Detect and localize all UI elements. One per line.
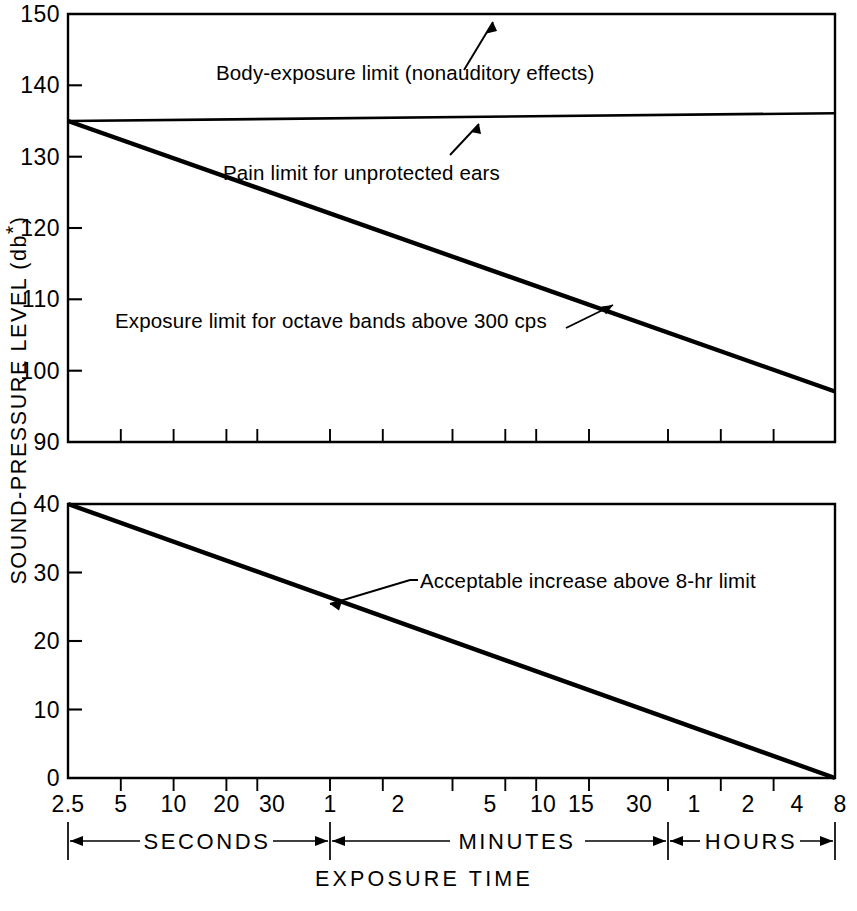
y-axis-title-group: SOUND-PRESSURE LEVEL (db*) — [1, 215, 31, 584]
bottom-panel: 40 30 20 10 0 Acceptab — [33, 491, 835, 791]
arrow-right-icon — [315, 836, 328, 846]
x-tick-label: 30 — [626, 791, 652, 817]
y-axis-title-star: * — [1, 224, 24, 234]
band-hours: HOURS — [670, 829, 833, 854]
band-label: HOURS — [705, 829, 797, 854]
y-tick-label: 150 — [20, 1, 60, 27]
x-tick-label: 15 — [568, 791, 594, 817]
top-panel: 150 140 130 120 110 100 90 — [20, 1, 835, 455]
y-axis-title-close: ) — [7, 215, 31, 224]
band-minutes: MINUTES — [332, 829, 666, 854]
arrowhead-icon — [471, 124, 481, 134]
x-tick-label: 2.5 — [52, 791, 85, 817]
arrow-left-icon — [70, 836, 83, 846]
x-tick-label: 5 — [483, 791, 496, 817]
bottom-panel-x-ticks — [121, 778, 774, 791]
x-tick-label: 1 — [687, 791, 700, 817]
band-seconds: SECONDS — [70, 829, 328, 854]
arrow-right-icon — [653, 836, 666, 846]
bottom-panel-y-tick-labels: 40 30 20 10 0 — [33, 491, 60, 791]
y-tick-label: 140 — [20, 72, 60, 98]
x-tick-label: 30 — [259, 791, 285, 817]
series-pain-limit — [68, 113, 835, 121]
y-tick-label: 10 — [33, 697, 60, 723]
x-tick-labels: 2.5 5 10 20 30 1 2 5 10 15 30 1 2 4 8 — [52, 791, 847, 817]
arrow-right-icon — [820, 836, 833, 846]
annotation-label: Pain limit for unprotected ears — [223, 161, 500, 184]
annotation-label: Exposure limit for octave bands above 30… — [115, 309, 547, 332]
x-tick-label: 5 — [114, 791, 127, 817]
band-label: MINUTES — [458, 829, 575, 854]
top-panel-y-ticks — [68, 85, 82, 370]
y-tick-label: 20 — [33, 628, 60, 654]
annotation-exposure-limit: Exposure limit for octave bands above 30… — [115, 305, 613, 332]
x-tick-label: 8 — [833, 791, 846, 817]
annotation-body-exposure: Body-exposure limit (nonauditory effects… — [216, 22, 594, 84]
x-tick-label: 4 — [790, 791, 803, 817]
annotation-label: Body-exposure limit (nonauditory effects… — [216, 61, 594, 84]
band-label: SECONDS — [144, 829, 271, 854]
y-tick-label: 30 — [33, 560, 60, 586]
y-tick-label: 40 — [33, 491, 60, 517]
x-tick-label: 1 — [323, 791, 336, 817]
y-tick-label: 90 — [33, 429, 60, 455]
y-tick-label: 0 — [47, 765, 60, 791]
x-tick-label: 10 — [161, 791, 187, 817]
x-axis-band-brackets: SECONDS MINUTES HOURS — [68, 822, 835, 860]
x-tick-label: 20 — [213, 791, 239, 817]
annotation-pain-limit: Pain limit for unprotected ears — [223, 124, 500, 184]
arrow-left-icon — [332, 836, 345, 846]
x-axis-title: EXPOSURE TIME — [315, 867, 533, 891]
chart-svg: 150 140 130 120 110 100 90 — [0, 0, 857, 911]
arrow-left-icon — [670, 836, 683, 846]
x-tick-label: 2 — [741, 791, 754, 817]
y-tick-label: 130 — [20, 144, 60, 170]
y-axis-title-main: SOUND-PRESSURE LEVEL (db — [7, 234, 31, 585]
y-axis-title: SOUND-PRESSURE LEVEL (db*) — [1, 215, 31, 584]
exposure-limits-figure: 150 140 130 120 110 100 90 — [0, 0, 857, 911]
annotation-acceptable-increase: Acceptable increase above 8-hr limit — [330, 569, 756, 611]
bottom-panel-y-ticks — [68, 573, 82, 710]
series-acceptable-increase — [68, 504, 835, 778]
top-panel-x-ticks — [121, 429, 774, 442]
x-tick-label: 10 — [530, 791, 556, 817]
x-tick-label: 2 — [391, 791, 404, 817]
annotation-label: Acceptable increase above 8-hr limit — [420, 569, 756, 592]
